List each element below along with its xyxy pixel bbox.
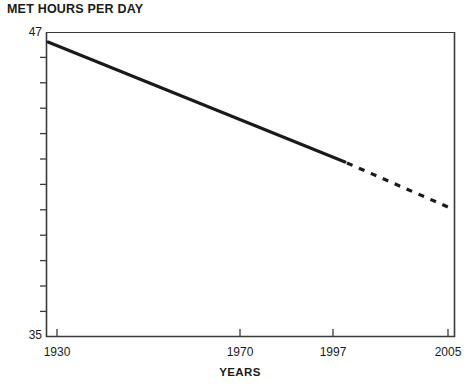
plot-area: [0, 0, 469, 389]
axis-frame: [46, 32, 455, 337]
data-line-projected: [347, 163, 448, 207]
data-line-observed: [48, 42, 345, 162]
chart-figure: MET HOURS PER DAY 47 35 1930 1970 1997 2…: [0, 0, 469, 389]
